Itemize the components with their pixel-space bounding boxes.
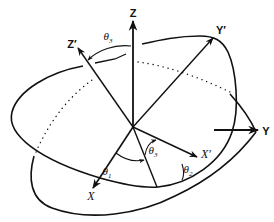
label-theta3-top: θ3: [104, 31, 113, 45]
theta1-arc: [116, 153, 144, 161]
y-prime-axis: [133, 38, 213, 127]
label-y-prime: Y′: [216, 25, 226, 36]
xy-plane-ellipse-lower: [31, 132, 256, 215]
label-z-prime: Z′: [67, 39, 76, 50]
diagram-canvas: [0, 0, 274, 222]
label-x: X: [87, 190, 94, 202]
label-x-prime: X′: [201, 148, 211, 160]
xy-plane-ellipse-hidden-right: [138, 62, 230, 92]
label-theta1: θ1: [103, 166, 112, 180]
label-theta2: θ2: [184, 164, 193, 178]
label-theta3-bottom: θ3: [149, 145, 158, 159]
label-y: Y: [262, 126, 269, 137]
theta3-top-arc: [88, 46, 131, 60]
label-z: Z: [130, 8, 137, 19]
z-prime-axis: [78, 48, 133, 127]
tilted-ellipse-top-segment: [95, 54, 126, 63]
tilted-plane-ellipse: [11, 36, 236, 187]
xy-plane-ellipse-hidden: [36, 78, 95, 152]
x-axis: [93, 127, 133, 188]
euler-angle-diagram: Z Z′ Y′ Y X X′ θ3 θ1 θ3 θ2: [0, 0, 274, 222]
